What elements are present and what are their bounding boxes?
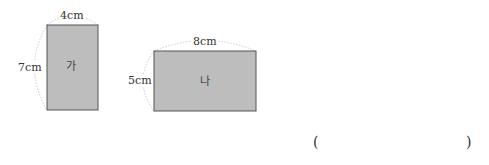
shape-name-na: 나 xyxy=(200,76,210,87)
width-label-na: 8cm xyxy=(192,36,218,47)
width-label-ga: 4cm xyxy=(59,10,85,21)
height-label-na: 5cm xyxy=(128,75,152,86)
answer-blank[interactable] xyxy=(325,135,460,151)
figure-canvas: 4cm 7cm 가 8cm 5cm 나 ( ) xyxy=(0,0,489,165)
shape-name-ga: 가 xyxy=(66,61,76,72)
answer-close-paren: ) xyxy=(466,135,471,149)
height-label-ga: 7cm xyxy=(18,62,42,73)
answer-open-paren: ( xyxy=(313,135,318,149)
